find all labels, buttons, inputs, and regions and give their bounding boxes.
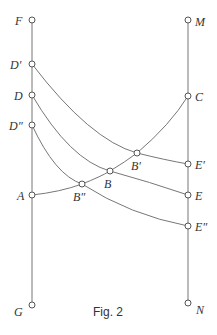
figure-caption: Fig. 2: [93, 305, 123, 319]
point-A: [29, 192, 35, 198]
label-C: C: [195, 90, 204, 104]
label-N: N: [195, 303, 205, 317]
label-F: F: [14, 14, 23, 28]
diagram-canvas: F D′ D D″ A G M C E′ E E″ N B′ B B″ Fig.…: [0, 0, 217, 335]
curve-D-dprime-E-dprime: [32, 125, 188, 226]
label-D-prime: D′: [9, 58, 22, 72]
point-E-prime: [185, 161, 191, 167]
label-G: G: [14, 305, 23, 319]
point-E: [185, 192, 191, 198]
point-D-dprime: [29, 122, 35, 128]
label-M: M: [194, 15, 206, 29]
label-E-prime: E′: [194, 158, 205, 172]
label-B: B: [104, 177, 112, 191]
point-B: [107, 168, 113, 174]
point-F: [29, 17, 35, 23]
curve-D-prime-E-prime: [32, 64, 188, 164]
point-C: [185, 93, 191, 99]
point-D: [29, 92, 35, 98]
label-D-dprime: D″: [8, 119, 24, 133]
label-A: A: [16, 189, 25, 203]
label-E: E: [194, 189, 203, 203]
point-G: [29, 302, 35, 308]
label-B-prime: B′: [131, 159, 141, 173]
label-D: D: [13, 89, 23, 103]
point-E-dprime: [185, 223, 191, 229]
point-N: [185, 300, 191, 306]
point-D-prime: [29, 61, 35, 67]
label-B-dprime: B″: [73, 190, 86, 204]
point-B-dprime: [79, 181, 85, 187]
point-B-prime: [134, 150, 140, 156]
point-M: [185, 17, 191, 23]
label-E-dprime: E″: [194, 220, 208, 234]
